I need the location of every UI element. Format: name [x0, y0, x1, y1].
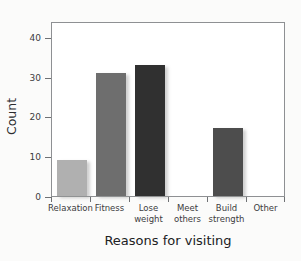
bar — [213, 128, 243, 196]
bar-slot — [247, 23, 286, 196]
bar-chart-figure: 010203040 Count RelaxationFitnessLose we… — [0, 0, 301, 261]
x-tick-label: Other — [243, 203, 289, 214]
y-tick-label: 30 — [30, 73, 41, 83]
x-axis-tick-labels: RelaxationFitnessLose weightMeet othersB… — [51, 203, 285, 231]
y-tick-label: 10 — [30, 152, 41, 162]
bar-slot — [52, 23, 91, 196]
y-tick-label: 40 — [30, 33, 41, 43]
x-tick-mark — [129, 197, 130, 202]
bar-slot — [208, 23, 247, 196]
x-tick-mark — [207, 197, 208, 202]
bar — [96, 73, 126, 196]
y-axis-title: Count — [4, 87, 19, 147]
bar — [57, 160, 87, 196]
x-tick-mark — [51, 197, 52, 202]
bar-slot — [91, 23, 130, 196]
bar-slot — [130, 23, 169, 196]
x-tick-mark — [246, 197, 247, 202]
x-axis-title: Reasons for visiting — [51, 233, 285, 248]
y-tick-label: 20 — [30, 112, 41, 122]
bar-slot — [169, 23, 208, 196]
bar — [135, 65, 165, 196]
x-tick-mark — [168, 197, 169, 202]
y-tick-label: 0 — [35, 192, 41, 202]
x-tick-mark — [284, 197, 285, 202]
bars-layer — [52, 23, 284, 196]
x-tick-mark — [90, 197, 91, 202]
plot-area — [51, 22, 285, 197]
